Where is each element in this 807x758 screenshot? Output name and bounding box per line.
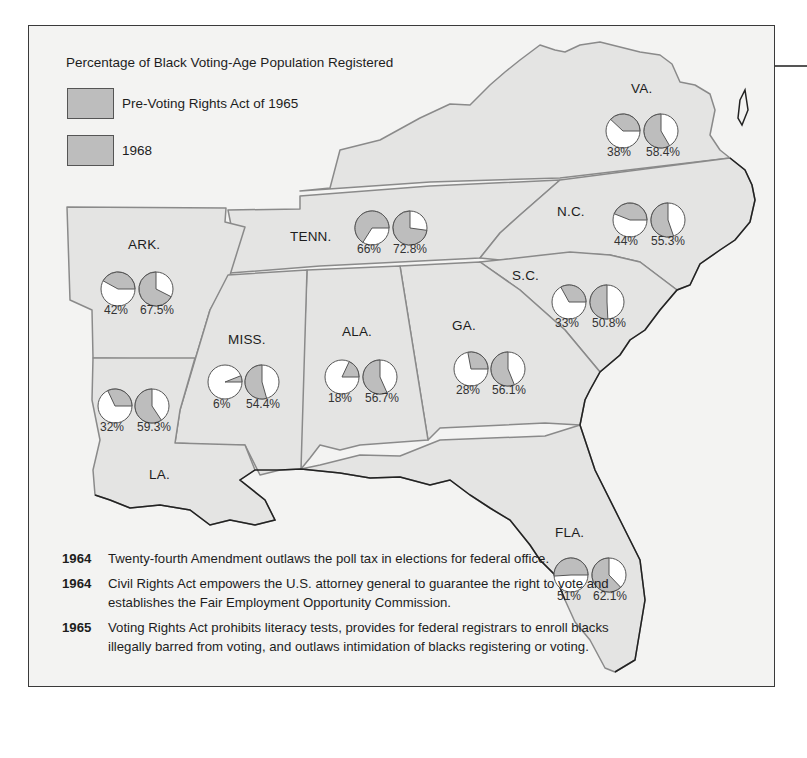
pie-value-ga-1968: 56.1% xyxy=(492,383,526,397)
pie-value-ga-pre1965: 28% xyxy=(456,383,480,397)
pie-value-sc-pre1965: 33% xyxy=(555,316,579,330)
pie-value-ark-1968: 67.5% xyxy=(140,303,174,317)
legend-label-pre1965: Pre-Voting Rights Act of 1965 xyxy=(122,96,298,111)
timeline-year: 1964 xyxy=(62,574,108,612)
pie-value-va-1968: 58.4% xyxy=(646,145,680,159)
timeline-year: 1964 xyxy=(62,549,108,568)
pie-value-la-1968: 59.3% xyxy=(137,420,171,434)
pie-value-ala-1968: 56.7% xyxy=(365,391,399,405)
state-label-ga: GA. xyxy=(452,318,476,333)
pie-value-va-pre1965: 38% xyxy=(607,145,631,159)
pie-value-ark-pre1965: 42% xyxy=(104,303,128,317)
state-label-miss: MISS. xyxy=(228,332,266,347)
pie-value-tenn-pre1965: 66% xyxy=(357,242,381,256)
pie-value-la-pre1965: 32% xyxy=(100,420,124,434)
state-label-ark: ARK. xyxy=(128,237,160,252)
state-label-la: LA. xyxy=(149,467,170,482)
timeline-text: Civil Rights Act empowers the U.S. attor… xyxy=(108,574,618,612)
timeline: 1964 Twenty-fourth Amendment outlaws the… xyxy=(62,549,702,662)
legend-item-1968: 1968 xyxy=(67,135,152,166)
timeline-item: 1964 Civil Rights Act empowers the U.S. … xyxy=(62,574,702,612)
pie-value-miss-1968: 54.4% xyxy=(246,397,280,411)
state-label-fla: FLA. xyxy=(555,525,584,540)
state-label-sc: S.C. xyxy=(512,268,539,283)
legend-swatch-1968 xyxy=(67,135,114,166)
pie-value-ala-pre1965: 18% xyxy=(328,391,352,405)
pie-value-nc-1968: 55.3% xyxy=(651,234,685,248)
state-label-va: VA. xyxy=(631,81,652,96)
timeline-text: Voting Rights Act prohibits literacy tes… xyxy=(108,618,618,656)
legend-item-pre1965: Pre-Voting Rights Act of 1965 xyxy=(67,88,298,119)
pie-value-tenn-1968: 72.8% xyxy=(393,242,427,256)
state-label-ala: ALA. xyxy=(342,324,372,339)
pie-value-nc-pre1965: 44% xyxy=(614,234,638,248)
legend-swatch-pre1965 xyxy=(67,88,114,119)
legend-title: Percentage of Black Voting-Age Populatio… xyxy=(66,55,393,70)
state-label-tenn: TENN. xyxy=(290,229,332,244)
timeline-text: Twenty-fourth Amendment outlaws the poll… xyxy=(108,549,618,568)
timeline-year: 1965 xyxy=(62,618,108,656)
state-label-nc: N.C. xyxy=(557,204,585,219)
timeline-item: 1964 Twenty-fourth Amendment outlaws the… xyxy=(62,549,702,568)
pie-value-miss-pre1965: 6% xyxy=(213,397,230,411)
timeline-item: 1965 Voting Rights Act prohibits literac… xyxy=(62,618,702,656)
chesapeake-shore xyxy=(738,90,748,125)
legend-label-1968: 1968 xyxy=(122,143,152,158)
pie-value-sc-1968: 50.8% xyxy=(592,316,626,330)
